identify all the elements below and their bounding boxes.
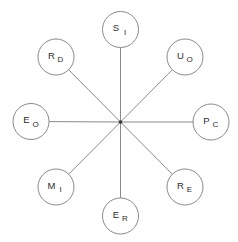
node-mi-sub-letter: I <box>59 185 61 194</box>
node-re-sub-letter: E <box>187 185 192 194</box>
node-rd[interactable]: RD <box>38 39 74 75</box>
node-re[interactable]: RE <box>167 169 203 205</box>
node-rd-sub-letter: D <box>58 55 64 64</box>
node-uo-sub-letter: O <box>186 55 192 64</box>
node-rd-circle[interactable] <box>38 39 74 75</box>
node-er-main-letter: E <box>113 209 119 220</box>
node-er-sub-letter: R <box>122 214 128 223</box>
radial-diagram-svg: SIUOPCREERMIEORD <box>0 0 238 242</box>
node-eo-main-letter: E <box>23 114 29 125</box>
node-uo[interactable]: UO <box>167 39 203 75</box>
node-re-circle[interactable] <box>167 169 203 205</box>
node-pc-sub-letter: C <box>213 120 219 129</box>
spoke-line-mi <box>69 122 121 174</box>
node-re-main-letter: R <box>177 180 184 191</box>
node-si-sub-letter: I <box>124 28 126 37</box>
node-eo[interactable]: EO <box>13 104 49 140</box>
node-uo-main-letter: U <box>177 50 184 61</box>
spoke-line-uo <box>121 70 173 122</box>
node-mi[interactable]: MI <box>38 169 74 205</box>
center-hub-dot <box>119 120 123 124</box>
node-er-circle[interactable] <box>103 198 139 234</box>
node-pc[interactable]: PC <box>193 104 229 140</box>
spoke-line-re <box>121 122 173 174</box>
node-eo-sub-letter: O <box>32 120 38 129</box>
node-si[interactable]: SI <box>103 12 139 48</box>
node-si-main-letter: S <box>113 22 119 33</box>
node-rd-main-letter: R <box>48 50 55 61</box>
node-pc-main-letter: P <box>203 115 209 126</box>
node-er[interactable]: ER <box>103 198 139 234</box>
node-mi-main-letter: M <box>48 180 56 191</box>
node-uo-circle[interactable] <box>167 39 203 75</box>
radial-diagram-canvas: SIUOPCREERMIEORD <box>0 0 238 242</box>
node-si-circle[interactable] <box>103 12 139 48</box>
node-eo-circle[interactable] <box>13 104 49 140</box>
node-pc-circle[interactable] <box>193 104 229 140</box>
node-mi-circle[interactable] <box>38 169 74 205</box>
spoke-line-rd <box>69 70 121 122</box>
